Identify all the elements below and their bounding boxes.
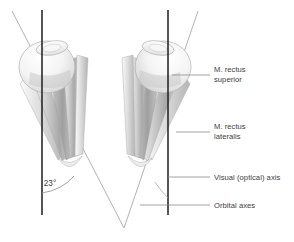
label-rectus-superior-line2: superior	[214, 75, 242, 84]
label-rectus-lateralis-line1: M. rectus	[214, 122, 246, 131]
label-rectus-lateralis-line2: lateralis	[214, 132, 241, 141]
label-rectus-superior-line1: M. rectus	[214, 65, 246, 74]
label-visual-axis: Visual (optical) axis	[214, 173, 280, 182]
angle-value-label: 23°	[44, 179, 56, 188]
label-orbital-axes: Orbital axes	[214, 201, 255, 210]
eye-axes-diagram: 23° M. rectus superior M. rectus lateral…	[0, 0, 294, 242]
